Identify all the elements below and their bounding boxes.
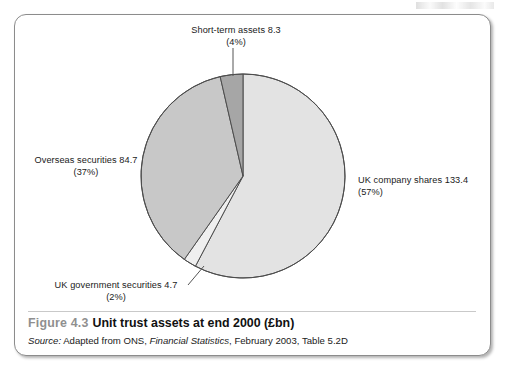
slice-label-uk-company-shares-name: UK company shares 133.4 [358, 175, 468, 185]
slice-label-uk-government-securities-pct: (2%) [36, 291, 196, 303]
slice-label-uk-government-securities-name: UK government securities 4.7 [55, 280, 178, 290]
caption-divider [28, 311, 476, 312]
slice-label-short-term-assets-name: Short-term assets 8.3 [191, 25, 281, 35]
slice-label-uk-company-shares: UK company shares 133.4 (57%) [358, 174, 500, 198]
slice-label-short-term-assets: Short-term assets 8.3 (4%) [166, 24, 306, 48]
figure-title: Unit trust assets at end 2000 (£bn) [93, 316, 295, 330]
source-word: Source: [28, 335, 61, 346]
figure-caption-block: Figure 4.3Unit trust assets at end 2000 … [28, 311, 468, 347]
source-publication-name: Financial Statistics [150, 335, 229, 346]
slice-label-overseas-securities-name: Overseas securities 84.7 [34, 155, 137, 165]
slice-label-short-term-assets-pct: (4%) [166, 36, 306, 48]
caption-title-row: Figure 4.3Unit trust assets at end 2000 … [28, 316, 468, 331]
source-text-first: Adapted from ONS, [61, 335, 150, 346]
slice-label-uk-company-shares-pct: (57%) [358, 186, 500, 198]
slice-label-overseas-securities-pct: (37%) [18, 166, 154, 178]
slice-label-uk-government-securities: UK government securities 4.7 (2%) [36, 279, 196, 303]
figure-source-row: Source: Adapted from ONS, Financial Stat… [28, 334, 468, 347]
slice-label-overseas-securities: Overseas securities 84.7 (37%) [18, 154, 154, 178]
source-text-second: , February 2003, Table 5.2D [229, 335, 348, 346]
figure-number: Figure 4.3 [28, 316, 89, 330]
